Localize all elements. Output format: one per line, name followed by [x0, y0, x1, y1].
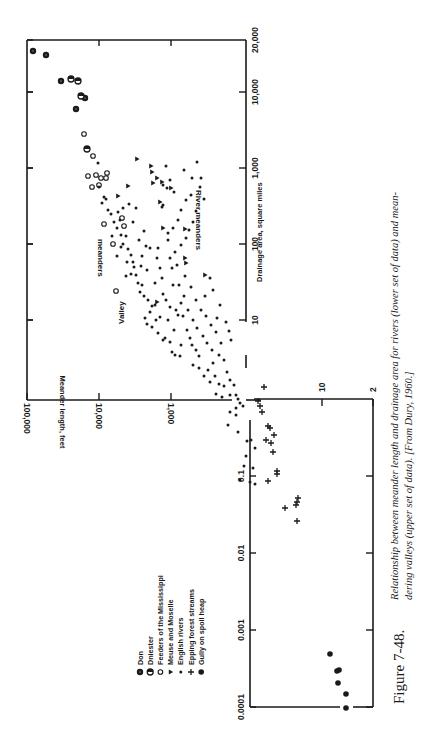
legend-label: Dniester: [146, 636, 155, 665]
legend-label: English rivers: [176, 617, 185, 665]
area-tick-label: 10,000: [250, 79, 260, 105]
legend-item: Epping forest streams: [187, 589, 196, 675]
plot-frame-lower: [246, 399, 373, 707]
y-axis-title: Meander length, feet: [58, 376, 67, 449]
annotation-valley: Valley: [117, 301, 126, 324]
series-meuse-and-moselle-valley-: [116, 157, 162, 205]
series-dniester: [68, 76, 90, 152]
legend-item: Don: [136, 651, 145, 675]
legend-label: Feeders of the Mississippi: [156, 575, 165, 665]
area-tick-label: 10: [250, 315, 260, 325]
series-gully-on-spoil-heap: [327, 651, 349, 711]
legend-item: Meuse and Moselle: [166, 599, 175, 674]
legend-label: Epping forest streams: [187, 589, 196, 665]
legend: DonDniesterFeeders of the MississippiMeu…: [136, 575, 206, 675]
figure-number: Figure 7-48.: [391, 630, 407, 704]
legend-item: Feeders of the Mississippi: [156, 575, 165, 674]
caption-line-1: Relationship between meander length and …: [389, 192, 401, 601]
legend-item: English rivers: [176, 617, 185, 673]
annotation-valley-meanders: meanders: [96, 239, 105, 277]
meander-tick-label: 2: [368, 387, 378, 392]
area-tick-label: 0.001: [236, 619, 246, 641]
legend-label: Gully on spoil heap: [197, 598, 206, 665]
meander-tick-label: 10: [317, 382, 327, 392]
legend-label: Meuse and Moselle: [166, 599, 175, 665]
meander-tick-label: 1,000: [166, 403, 176, 425]
x-axis-title: Drainage area, square miles: [255, 182, 264, 282]
legend-item: Dniester: [146, 636, 155, 675]
area-tick-label: 1,000: [250, 157, 260, 179]
annotation-river-meanders: River meanders: [194, 190, 203, 251]
area-tick-label: 0.0001: [236, 694, 246, 720]
legend-item: Gully on spoil heap: [197, 598, 206, 675]
meander-tick-label: 10,000: [94, 403, 104, 429]
caption-line-2: dering valleys (upper set of data). [Fro…: [403, 371, 415, 600]
plot-frame-upper: [27, 40, 246, 400]
series-epping-forest-streams: [255, 384, 301, 524]
area-tick-label: 20,000: [250, 27, 260, 53]
meander-scatter-figure: 100,00010,0001,00010220,00010,0001,00010…: [0, 0, 429, 744]
meander-tick-label: 100,000: [22, 403, 32, 434]
legend-label: Don: [136, 651, 145, 665]
area-tick-label: 0.01: [236, 544, 246, 561]
